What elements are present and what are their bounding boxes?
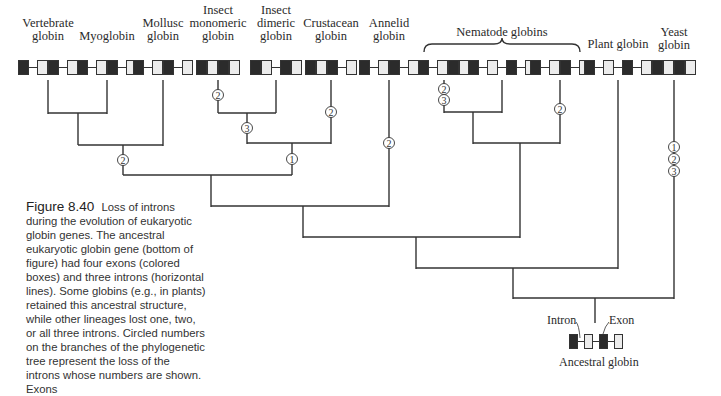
loss-marker-insect-monomeric: 2 bbox=[213, 90, 224, 101]
loss-marker-insect-stem: 3 bbox=[242, 123, 253, 134]
nematode-bracket bbox=[424, 38, 580, 52]
ancestral-globin-label: Ancestral globin bbox=[559, 355, 639, 370]
svg-text:2: 2 bbox=[216, 90, 221, 101]
svg-text:2: 2 bbox=[672, 154, 677, 165]
loss-marker-yeast: 123 bbox=[669, 142, 680, 177]
exon-1 bbox=[569, 334, 578, 349]
svg-text:1: 1 bbox=[672, 142, 677, 153]
loss-marker-nematode-3: 2 bbox=[555, 104, 566, 115]
intron-loss-markers: 2 3 2 2 1 2 23 2 123 bbox=[118, 84, 680, 177]
figure-number: Figure 8.40 bbox=[26, 199, 94, 214]
svg-text:1: 1 bbox=[290, 154, 295, 165]
figure-caption: Figure 8.40 Loss of introns during the e… bbox=[26, 200, 206, 396]
svg-text:3: 3 bbox=[672, 166, 677, 177]
svg-text:2: 2 bbox=[121, 155, 126, 166]
loss-marker-crustacean: 2 bbox=[326, 107, 337, 118]
figure-caption-text: Loss of introns during the evolution of … bbox=[26, 201, 206, 395]
loss-marker-vertebrate-mollusc-stem: 2 bbox=[118, 155, 129, 166]
exon-2 bbox=[584, 334, 593, 349]
exon-4 bbox=[614, 334, 623, 349]
loss-marker-insect-crustacean-stem: 1 bbox=[287, 154, 298, 165]
svg-text:3: 3 bbox=[442, 95, 447, 106]
intron-pointer-label: Intron bbox=[547, 313, 576, 328]
loss-marker-nematode-1: 23 bbox=[439, 84, 450, 106]
exon-3 bbox=[599, 334, 608, 349]
svg-text:2: 2 bbox=[558, 104, 563, 115]
svg-text:2: 2 bbox=[387, 138, 392, 149]
svg-text:2: 2 bbox=[329, 107, 334, 118]
svg-text:3: 3 bbox=[245, 123, 250, 134]
svg-text:2: 2 bbox=[442, 84, 447, 95]
exon-pointer-label: Exon bbox=[609, 313, 634, 328]
gene-ancestral bbox=[569, 333, 623, 350]
loss-marker-annelid: 2 bbox=[384, 138, 395, 149]
